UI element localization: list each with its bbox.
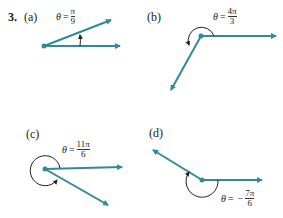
part-d-label: (d) bbox=[149, 126, 163, 141]
fraction: 4π 3 bbox=[228, 7, 237, 26]
part-b-label: (b) bbox=[147, 10, 161, 25]
initial-ray bbox=[45, 167, 122, 169]
fraction: 11π 6 bbox=[77, 140, 90, 159]
terminal-ray bbox=[171, 36, 201, 90]
diagram-a bbox=[42, 20, 121, 49]
angle-diagrams bbox=[0, 0, 283, 218]
theta-formula-a: θ = π 9 bbox=[56, 7, 75, 26]
denominator: 6 bbox=[81, 150, 86, 159]
diagram-c bbox=[30, 156, 122, 205]
fraction: 7π 6 bbox=[245, 189, 254, 208]
part-c-label: (c) bbox=[26, 127, 39, 142]
denominator: 3 bbox=[230, 17, 235, 26]
problem-number: 3. bbox=[8, 10, 17, 25]
rotation-arc bbox=[186, 172, 218, 197]
minus-sign: − bbox=[238, 193, 244, 204]
equals-sign: = bbox=[228, 193, 234, 204]
theta-formula-d: θ = − 7π 6 bbox=[221, 189, 254, 208]
numerator: 11π bbox=[77, 140, 90, 149]
part-a-label: (a) bbox=[24, 10, 37, 25]
equals-sign: = bbox=[63, 11, 69, 22]
theta-formula-c: θ = 11π 6 bbox=[62, 140, 90, 159]
terminal-ray bbox=[45, 169, 108, 205]
fraction: π 9 bbox=[71, 7, 76, 26]
theta-symbol: θ bbox=[62, 144, 67, 155]
terminal-ray bbox=[153, 150, 202, 180]
vertex-dot bbox=[43, 167, 48, 172]
terminal-ray bbox=[44, 20, 111, 46]
theta-symbol: θ bbox=[221, 193, 226, 204]
theta-symbol: θ bbox=[56, 11, 61, 22]
theta-symbol: θ bbox=[213, 11, 218, 22]
equals-sign: = bbox=[69, 144, 75, 155]
denominator: 9 bbox=[71, 17, 76, 26]
vertex-dot bbox=[199, 34, 204, 39]
diagram-b bbox=[171, 27, 276, 90]
equals-sign: = bbox=[220, 11, 226, 22]
vertex-dot bbox=[200, 178, 205, 183]
theta-formula-b: θ = 4π 3 bbox=[213, 7, 237, 26]
numerator: 7π bbox=[245, 189, 254, 198]
vertex-dot bbox=[42, 44, 47, 49]
numerator: 4π bbox=[228, 7, 237, 16]
numerator: π bbox=[71, 7, 76, 16]
denominator: 6 bbox=[247, 199, 252, 208]
